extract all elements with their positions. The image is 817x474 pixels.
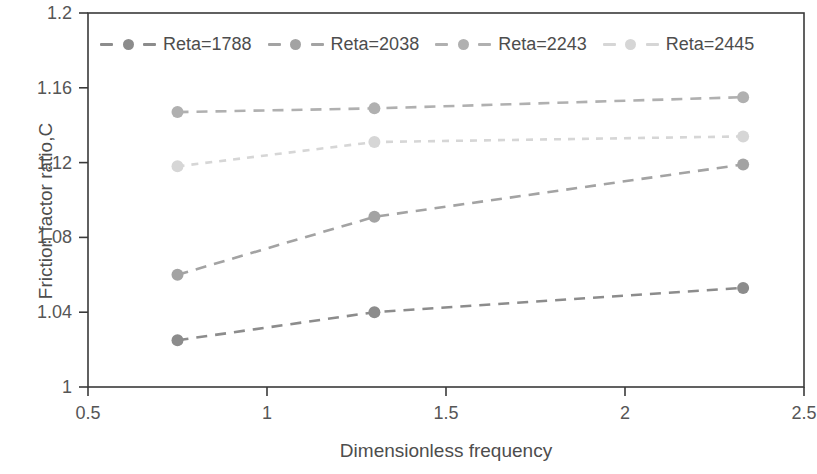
legend-dash-icon xyxy=(478,43,491,46)
data-point-marker xyxy=(737,158,749,170)
plot-border xyxy=(88,13,804,387)
legend-sample xyxy=(268,39,324,50)
x-tick-label: 1.5 xyxy=(433,403,458,424)
data-point-marker xyxy=(737,282,749,294)
legend-dash-icon xyxy=(100,43,113,46)
y-axis-title: Friction factor ratio,C xyxy=(35,61,57,361)
series-2 xyxy=(172,91,750,118)
chart-legend: Reta=1788Reta=2038Reta=2243Reta=2445 xyxy=(100,34,770,55)
x-tick-label: 2.5 xyxy=(791,403,816,424)
legend-label: Reta=2038 xyxy=(331,34,420,55)
data-point-marker xyxy=(368,102,380,114)
legend-label: Reta=2243 xyxy=(498,34,587,55)
x-tick-label: 2 xyxy=(620,403,630,424)
series-line xyxy=(178,288,744,340)
legend-marker-icon xyxy=(123,39,134,50)
legend-item-1[interactable]: Reta=2038 xyxy=(268,34,420,55)
legend-label: Reta=2445 xyxy=(666,34,755,55)
legend-sample xyxy=(100,39,156,50)
series-line xyxy=(178,164,744,274)
legend-sample xyxy=(435,39,491,50)
data-point-marker xyxy=(368,306,380,318)
legend-label: Reta=1788 xyxy=(163,34,252,55)
series-1 xyxy=(172,158,750,280)
legend-sample xyxy=(603,39,659,50)
legend-item-0[interactable]: Reta=1788 xyxy=(100,34,252,55)
legend-dash-icon xyxy=(603,43,616,46)
data-point-marker xyxy=(172,160,184,172)
data-series xyxy=(172,91,750,346)
legend-dash-icon xyxy=(646,43,659,46)
y-tick-label: 1.2 xyxy=(0,3,72,24)
data-point-marker xyxy=(172,269,184,281)
axes-frame xyxy=(88,13,804,387)
data-point-marker xyxy=(737,130,749,142)
legend-dash-icon xyxy=(311,43,324,46)
data-point-marker xyxy=(172,106,184,118)
x-tick-label: 1 xyxy=(262,403,272,424)
series-3 xyxy=(172,130,750,172)
data-point-marker xyxy=(172,334,184,346)
series-line xyxy=(178,136,744,166)
legend-dash-icon xyxy=(143,43,156,46)
legend-item-3[interactable]: Reta=2445 xyxy=(603,34,755,55)
y-tick-label: 1 xyxy=(0,377,72,398)
series-0 xyxy=(172,282,750,346)
legend-dash-icon xyxy=(435,43,448,46)
legend-dash-icon xyxy=(268,43,281,46)
x-axis-title: Dimensionless frequency xyxy=(88,440,804,462)
x-tick-label: 0.5 xyxy=(75,403,100,424)
legend-marker-icon xyxy=(458,39,469,50)
data-point-marker xyxy=(737,91,749,103)
legend-marker-icon xyxy=(290,39,301,50)
legend-item-2[interactable]: Reta=2243 xyxy=(435,34,587,55)
legend-marker-icon xyxy=(625,39,636,50)
data-point-marker xyxy=(368,211,380,223)
data-point-marker xyxy=(368,136,380,148)
series-line xyxy=(178,97,744,112)
